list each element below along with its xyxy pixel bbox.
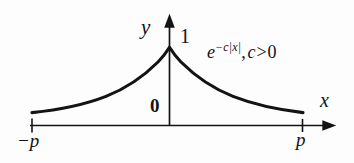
x-axis-label: x [320, 90, 329, 110]
annotation-separator: , [241, 42, 246, 62]
annotation-condition-relation: > [255, 42, 267, 62]
y-peak-value-label: 1 [180, 26, 190, 46]
annotation-exponent: −c|x| [215, 40, 241, 54]
y-axis-label: y [141, 17, 150, 38]
function-annotation: e−c|x|, c>0 [207, 41, 277, 61]
annotation-base: e [207, 42, 215, 62]
x-tick-label-negative-p: −p [17, 131, 39, 150]
x-tick-label-positive-p: p [296, 130, 306, 149]
exponential-decay-figure: y x 1 0 −p p e−c|x|, c>0 [0, 0, 354, 163]
annotation-condition-value: 0 [268, 42, 277, 62]
origin-label: 0 [150, 96, 160, 115]
